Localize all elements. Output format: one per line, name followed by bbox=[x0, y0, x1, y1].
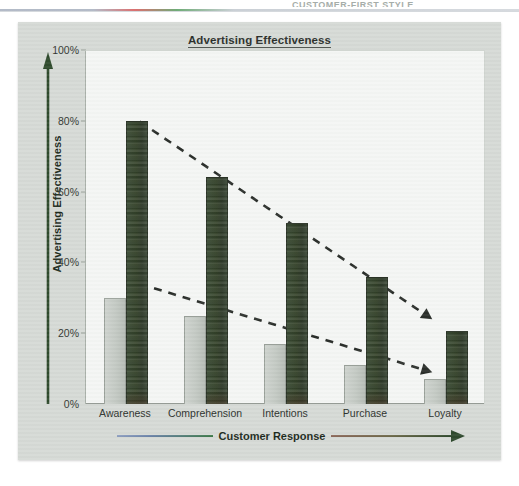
bar-intentions-series-1 bbox=[264, 344, 286, 404]
bar-group-comprehension bbox=[166, 51, 246, 404]
bar-loyalty-series-2 bbox=[446, 331, 468, 404]
plot-area bbox=[85, 50, 485, 404]
page-running-header: CUSTOMER-FIRST STYLE bbox=[292, 0, 519, 7]
bar-intentions-series-2 bbox=[286, 223, 308, 404]
scanned-page: CUSTOMER-FIRST STYLE Nielsen Marketing a… bbox=[0, 0, 519, 486]
bar-group-purchase bbox=[326, 51, 406, 404]
bar-group-intentions bbox=[246, 51, 326, 404]
y-axis-tick-20: 20% bbox=[58, 327, 79, 339]
bar-loyalty-series-1 bbox=[424, 379, 446, 404]
bar-group-awareness bbox=[86, 51, 166, 404]
y-axis-tick-0: 0% bbox=[64, 398, 79, 410]
plot-inner bbox=[86, 51, 484, 404]
x-axis-line-left bbox=[117, 435, 213, 437]
bar-purchase-series-1 bbox=[344, 365, 366, 404]
bar-awareness-series-2 bbox=[126, 121, 148, 404]
chart-title-text: Advertising Effectiveness bbox=[188, 34, 331, 48]
page-header-rule-secondary bbox=[0, 11, 519, 12]
x-axis-label-purchase: Purchase bbox=[343, 407, 387, 419]
x-axis-label-comprehension: Comprehension bbox=[168, 407, 242, 419]
y-axis-tick-40: 40% bbox=[58, 256, 79, 268]
figure-panel: Nielsen Marketing and Customer Advertisi… bbox=[18, 22, 501, 460]
y-axis-tick-80: 80% bbox=[58, 115, 79, 127]
bar-comprehension-series-1 bbox=[184, 316, 206, 405]
bar-comprehension-series-2 bbox=[206, 177, 228, 404]
y-axis-tick-60: 60% bbox=[58, 186, 79, 198]
y-axis-tick-100: 100% bbox=[52, 44, 79, 56]
x-axis-label-loyalty: Loyalty bbox=[428, 407, 461, 419]
bar-group-loyalty bbox=[406, 51, 486, 404]
bar-purchase-series-2 bbox=[366, 277, 388, 404]
x-axis-title-row: Customer Response bbox=[85, 426, 485, 446]
y-axis-tick-labels: 0%20%40%60%80%100% bbox=[18, 50, 85, 404]
x-axis-arrowhead-icon bbox=[451, 430, 465, 442]
x-axis-title: Customer Response bbox=[213, 430, 332, 442]
bar-awareness-series-1 bbox=[104, 298, 126, 404]
x-axis-label-awareness: Awareness bbox=[99, 407, 151, 419]
x-axis-line-right bbox=[331, 435, 453, 437]
x-axis-tick-labels: AwarenessComprehensionIntentionsPurchase… bbox=[85, 407, 485, 423]
chart-title: Advertising Effectiveness bbox=[18, 34, 501, 46]
x-axis-label-intentions: Intentions bbox=[262, 407, 308, 419]
